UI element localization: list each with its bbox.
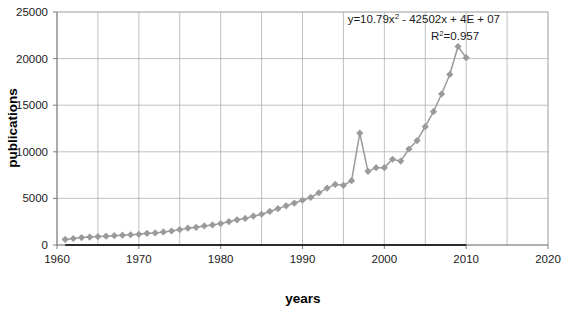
x-tick-label: 2000 [372, 253, 398, 265]
x-tick-label: 1990 [290, 253, 316, 265]
y-axis-title: publications [5, 88, 20, 168]
publications-over-years-chart: 0500010000150002000025000 19601970198019… [0, 0, 577, 319]
y-tick-label: 5000 [22, 192, 48, 204]
y-tick-label: 20000 [16, 53, 48, 65]
x-tick-label: 1960 [44, 253, 70, 265]
x-tick-label: 1970 [126, 253, 152, 265]
x-tick-label: 2020 [535, 253, 561, 265]
chart-background [0, 0, 577, 319]
y-tick-label: 15000 [16, 99, 48, 111]
x-tick-label: 2010 [453, 253, 479, 265]
x-axis-title: years [285, 291, 320, 306]
chart-container: 0500010000150002000025000 19601970198019… [0, 0, 577, 319]
x-tick-label: 1980 [208, 253, 234, 265]
y-tick-label: 25000 [16, 6, 48, 18]
trendline-equation-label: y=10.79x2 - 42502x + 4E + 07 [348, 12, 500, 25]
y-tick-label: 10000 [16, 146, 48, 158]
r-squared-label: R2=0.957 [431, 29, 479, 42]
y-tick-label: 0 [42, 239, 48, 251]
